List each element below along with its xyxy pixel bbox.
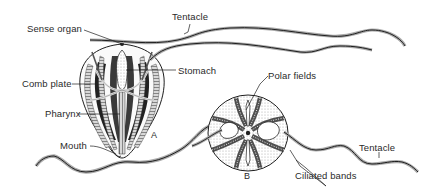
label-sense-organ: Sense organ [27,24,82,34]
label-ciliated-bands: Ciliated bands [295,171,357,181]
label-comb-plate: Comb plate [22,79,72,89]
label-mouth: Mouth [60,141,87,151]
label-tentacle-top: Tentacle [172,12,208,22]
label-pharynx: Pharynx [45,109,81,119]
ctenophore-diagram: Sense organ Tentacle Stomach Comb plate … [0,0,429,195]
figure-label-b: B [244,172,250,181]
label-tentacle-right: Tentacle [359,143,395,153]
label-polar-fields: Polar fields [268,71,316,81]
figure-label-a: A [151,131,157,140]
label-stomach: Stomach [178,66,216,76]
